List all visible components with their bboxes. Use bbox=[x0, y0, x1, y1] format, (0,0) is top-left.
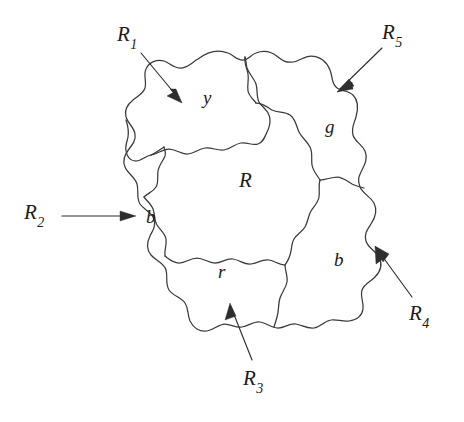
region-label-y: y bbox=[203, 88, 211, 107]
callout-R1-subscript: 1 bbox=[130, 37, 137, 52]
callout-R4-subscript: 4 bbox=[422, 316, 429, 331]
callout-R1-base: R bbox=[117, 22, 130, 46]
outer-boundary bbox=[124, 51, 381, 331]
callout-R2-base: R bbox=[24, 200, 37, 224]
callout-R5-subscript: 5 bbox=[395, 35, 402, 50]
callout-arrow-R3 bbox=[225, 303, 252, 360]
boundary-y-bleft bbox=[126, 120, 151, 161]
callout-R4-base: R bbox=[409, 301, 422, 325]
callout-label-R1: R1 bbox=[117, 24, 137, 49]
callout-R3-base: R bbox=[243, 366, 256, 390]
region-label-b-left: b bbox=[146, 207, 156, 226]
map-diagram bbox=[0, 0, 464, 422]
callout-arrow-R4 bbox=[375, 246, 412, 297]
boundary-g-bright bbox=[320, 177, 364, 188]
boundary-R-bright bbox=[285, 180, 320, 265]
callout-label-R4: R4 bbox=[409, 303, 429, 328]
region-label-g: g bbox=[325, 117, 335, 136]
callout-arrow-R5 bbox=[337, 48, 382, 92]
callout-R5-base: R bbox=[382, 20, 395, 44]
region-label-r: r bbox=[218, 262, 225, 281]
callout-label-R3: R3 bbox=[243, 368, 263, 393]
figure-root: y g R b r b R1 R2 R3 R4 R5 bbox=[0, 0, 464, 422]
callout-R2-subscript: 2 bbox=[37, 215, 44, 230]
callout-arrow-R2 bbox=[62, 211, 136, 221]
callout-label-R2: R2 bbox=[24, 202, 44, 227]
region-label-R: R bbox=[239, 170, 252, 191]
region-label-b-right: b bbox=[334, 250, 344, 269]
callout-label-R5: R5 bbox=[382, 22, 402, 47]
boundary-r-bright bbox=[274, 265, 287, 327]
callout-R3-subscript: 3 bbox=[256, 381, 263, 396]
boundary-g-R bbox=[256, 103, 320, 180]
